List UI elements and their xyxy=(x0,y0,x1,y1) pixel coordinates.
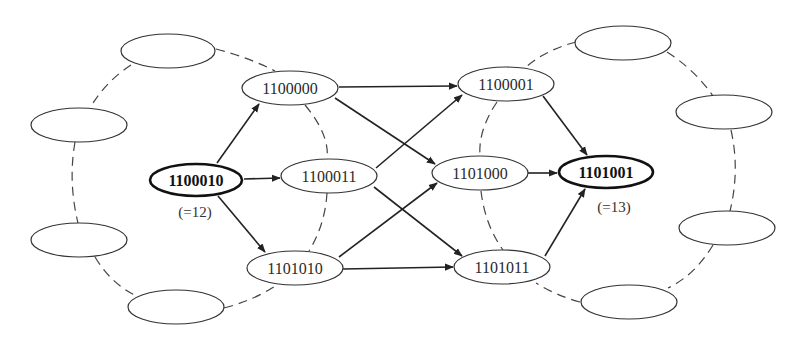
node-1100010-source: 1100010 xyxy=(150,164,242,196)
node-label: 1100011 xyxy=(302,168,357,185)
edge-1100011-1100001 xyxy=(376,95,462,168)
empty-node-right-lower xyxy=(679,211,775,245)
edge-1101010-1101011 xyxy=(343,267,453,269)
edge-1100001-1101001 xyxy=(543,96,587,155)
node-label: 1101000 xyxy=(452,165,507,182)
edge-1100000-1100001 xyxy=(339,86,457,87)
empty-node-right-upper xyxy=(676,95,772,129)
node-label: 1101001 xyxy=(578,164,633,181)
node-1101000: 1101000 xyxy=(432,156,528,190)
target-value-note: (=13) xyxy=(597,199,630,216)
node-label: 1100010 xyxy=(168,172,223,189)
empty-node-left-bottom xyxy=(128,290,224,324)
edge-1100010-1100011 xyxy=(244,178,280,179)
edge-1101010-1101000 xyxy=(339,183,437,257)
empty-node-left-lower xyxy=(31,223,127,257)
edge-1100010-1101010 xyxy=(218,196,265,252)
directed-edges xyxy=(217,86,587,269)
node-label: 1100001 xyxy=(478,76,533,93)
node-1101001-target: 1101001 xyxy=(559,156,653,188)
node-label: 1100000 xyxy=(262,80,317,97)
node-label: 1101010 xyxy=(267,260,322,277)
node-label: 1101011 xyxy=(475,259,530,276)
node-1101010: 1101010 xyxy=(247,251,343,285)
node-1100001: 1100001 xyxy=(458,67,554,101)
empty-nodes xyxy=(31,26,775,324)
node-1101011: 1101011 xyxy=(454,250,550,284)
empty-node-right-bottom xyxy=(581,285,677,319)
empty-node-right-top xyxy=(575,26,671,60)
empty-node-left-upper xyxy=(31,108,127,142)
node-1100000: 1100000 xyxy=(242,71,338,105)
edge-1100010-1100000 xyxy=(217,104,259,163)
hypercube-path-diagram: 1100000 1100010 (=12) 1100011 1101010 11… xyxy=(0,0,804,347)
empty-node-left-top xyxy=(121,34,215,68)
edge-1101011-1101001 xyxy=(545,189,585,256)
node-1100011: 1100011 xyxy=(281,159,377,193)
source-value-note: (=12) xyxy=(178,204,211,221)
